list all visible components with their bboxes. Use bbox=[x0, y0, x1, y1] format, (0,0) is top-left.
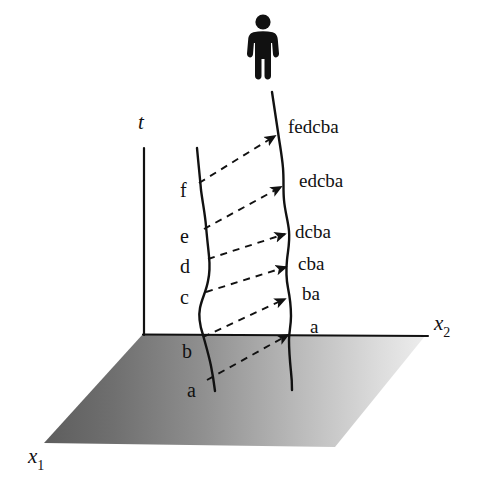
left-event-label-c: c bbox=[180, 287, 189, 307]
x2-axis-label-subscript: 2 bbox=[443, 325, 450, 340]
signal-arrow-d bbox=[208, 234, 285, 259]
x1-axis-label: x1 bbox=[28, 446, 44, 471]
x2-axis-label-base: x bbox=[434, 311, 443, 335]
right-event-label-fedcba: fedcba bbox=[288, 117, 339, 136]
right-event-label-dcba: dcba bbox=[295, 222, 331, 241]
right-event-label-ba: ba bbox=[302, 284, 320, 303]
spacetime-figure: f e d c b a fedcba edcba dcba cba ba a t… bbox=[0, 0, 484, 494]
signal-arrow-f bbox=[199, 136, 275, 183]
x2-axis-line bbox=[143, 335, 428, 337]
x1-axis-label-subscript: 1 bbox=[37, 458, 44, 473]
left-event-label-e: e bbox=[180, 226, 189, 246]
right-event-label-edcba: edcba bbox=[299, 171, 343, 190]
right-event-label-a: a bbox=[310, 317, 318, 336]
x1-axis-label-base: x bbox=[28, 444, 37, 468]
figure-canvas bbox=[0, 0, 484, 494]
signal-arrow-e bbox=[204, 187, 281, 229]
x2-axis-label: x2 bbox=[434, 313, 450, 338]
t-axis-label: t bbox=[138, 112, 144, 133]
signal-arrow-b bbox=[203, 299, 285, 337]
ground-plane bbox=[44, 334, 425, 447]
left-event-label-f: f bbox=[180, 180, 187, 200]
signal-arrow-c bbox=[206, 267, 286, 292]
person-icon bbox=[247, 14, 279, 79]
left-event-label-a: a bbox=[187, 380, 196, 400]
left-event-label-d: d bbox=[180, 256, 190, 276]
right-event-label-cba: cba bbox=[298, 254, 324, 273]
left-event-label-b: b bbox=[182, 341, 192, 361]
